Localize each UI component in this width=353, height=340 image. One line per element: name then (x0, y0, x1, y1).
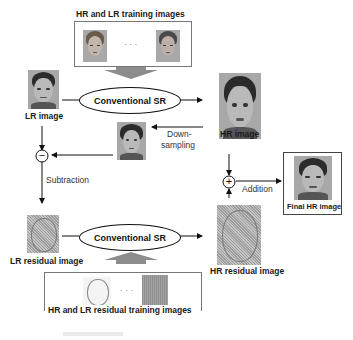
subtraction-label: Subtraction (46, 175, 89, 185)
final-hr-image-thumbnail (294, 156, 332, 200)
top-training-title: HR and LR training images (76, 9, 185, 19)
training-lr-face-thumbnail (156, 30, 180, 62)
training-arrow-down (104, 70, 158, 79)
lr-residual-image-thumbnail (27, 215, 59, 253)
top-training-box: · · · (74, 21, 192, 67)
hr-residual-image-thumbnail (217, 205, 261, 265)
residual-training-arrow-up (104, 252, 158, 260)
hr-image-label: HR image (220, 129, 259, 139)
conventional-sr-bottom: Conventional SR (79, 224, 181, 251)
faint-caption-fragment (63, 332, 123, 336)
bottom-training-title: HR and LR residual training images (46, 305, 194, 315)
downsampling-label-line1: Down- (167, 129, 192, 139)
plus-icon: + (224, 175, 234, 187)
lr-image-label: LR image (25, 111, 63, 121)
hr-residual-label: HR residual image (210, 266, 284, 276)
training-ellipsis: · · · (124, 39, 137, 49)
lr-image-thumbnail (28, 70, 59, 109)
lr-residual-label: LR residual image (10, 256, 83, 266)
addition-label: Addition (242, 184, 273, 194)
conventional-sr-top-label: Conventional SR (94, 96, 166, 106)
final-hr-label: Final HR image (287, 202, 341, 211)
minus-icon: − (37, 149, 47, 161)
conventional-sr-bottom-label: Conventional SR (94, 233, 166, 243)
residual-training-arrow-up-bar (116, 260, 146, 264)
conventional-sr-top: Conventional SR (79, 87, 181, 114)
residual-training-ellipsis: · · · (120, 285, 133, 295)
residual-training-noise-thumbnail (142, 275, 168, 309)
training-hr-face-thumbnail (83, 30, 107, 62)
residual-training-sketch-thumbnail (83, 277, 111, 307)
downsampling-label-line2: sampling (161, 140, 195, 150)
final-hr-box: Final HR image (283, 152, 342, 215)
downsampled-image-thumbnail (117, 122, 146, 160)
